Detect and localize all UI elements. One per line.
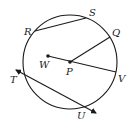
label-S: S [89,7,96,18]
point-W-dot [46,54,50,58]
label-W: W [39,59,50,70]
label-Q: Q [112,27,120,38]
label-V: V [118,73,127,84]
point-P-dot [68,60,72,64]
segment-WV [48,56,116,72]
circle-diagram: R S Q W P V T U [0,0,135,123]
label-T: T [10,74,18,85]
label-P: P [65,66,73,77]
label-R: R [23,26,32,37]
label-U: U [77,110,86,121]
chord-RS [35,18,86,31]
radius-PQ [70,37,110,62]
